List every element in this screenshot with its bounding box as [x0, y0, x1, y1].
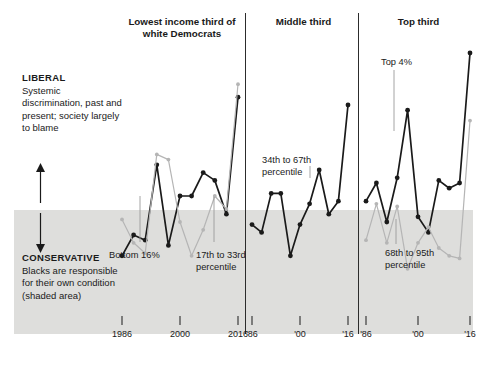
series-point — [120, 218, 124, 222]
series-point — [458, 257, 462, 261]
series-point — [132, 241, 136, 245]
annotation-34th-to-67th: 34th to 67th percentile — [262, 155, 332, 178]
series-point — [447, 186, 452, 191]
series-point — [385, 241, 389, 245]
series-line — [252, 105, 348, 256]
series-point — [416, 214, 421, 219]
series-point — [236, 82, 240, 86]
series-point — [178, 220, 182, 224]
series-point — [436, 178, 441, 183]
series-point — [346, 103, 351, 108]
series-point — [278, 191, 283, 196]
series-point — [224, 212, 229, 217]
series-point — [288, 253, 293, 258]
series-point — [395, 175, 400, 180]
series-point — [468, 119, 472, 123]
series-point — [427, 225, 431, 229]
axis-tick-label: '00 — [280, 329, 320, 339]
axis-tick-label: '86 — [232, 329, 272, 339]
annotation-top-4: Top 4% — [381, 57, 435, 69]
series-point — [364, 238, 368, 242]
series-point — [307, 201, 312, 206]
chart-stage: LIBERAL Systemic discrimination, past an… — [0, 0, 487, 368]
series-point — [375, 202, 379, 206]
series-point — [395, 205, 399, 209]
series-point — [201, 170, 206, 175]
axis-tick-label: '86 — [346, 329, 386, 339]
series-point — [468, 51, 473, 56]
series-point — [213, 194, 217, 198]
series-point — [384, 220, 389, 225]
series-point — [166, 243, 171, 248]
axis-tick-label: 1986 — [102, 329, 142, 339]
series-line — [122, 97, 238, 256]
annotation-bottom-16: Bottom 16% — [109, 250, 187, 262]
series-point — [298, 222, 303, 227]
series-point — [190, 254, 194, 258]
series-point — [416, 241, 420, 245]
series-point — [155, 153, 159, 157]
series-line — [366, 121, 470, 269]
axis-tick-label: '00 — [398, 329, 438, 339]
series-point — [167, 158, 171, 162]
annotation-68th-to-95th: 68th to 95th percentile — [385, 248, 455, 271]
annotation-17th-to-33rd: 17th to 33rd percentile — [196, 250, 258, 273]
series-point — [201, 228, 205, 232]
series-point — [189, 194, 194, 199]
series-point — [178, 194, 183, 199]
series-point — [131, 233, 136, 238]
series-point — [364, 199, 369, 204]
axis-tick-label: 2000 — [160, 329, 200, 339]
series-point — [457, 181, 462, 186]
series-point — [336, 199, 341, 204]
series-point — [259, 230, 264, 235]
series-point — [269, 191, 274, 196]
series-line — [122, 84, 238, 256]
series-point — [326, 212, 331, 217]
series-point — [405, 108, 410, 113]
series-point — [250, 222, 255, 227]
series-point — [212, 178, 217, 183]
series-point — [374, 181, 379, 186]
axis-tick-label: '16 — [450, 329, 487, 339]
line-series-plot — [0, 0, 487, 368]
series-point — [225, 207, 229, 211]
series-line — [366, 53, 470, 232]
